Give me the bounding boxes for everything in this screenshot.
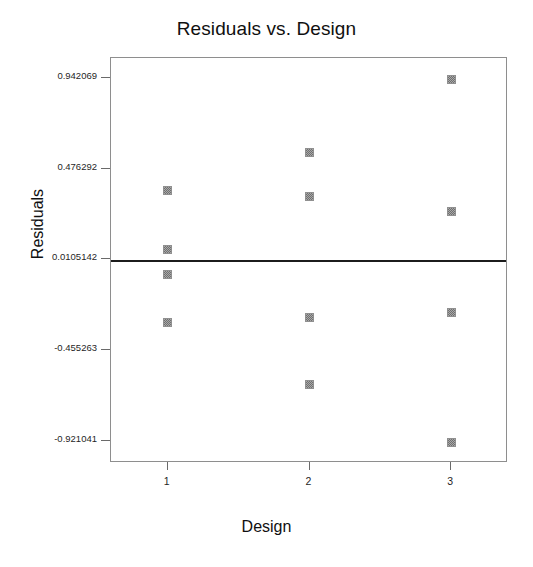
y-tick-mark: [101, 258, 110, 259]
y-tick-mark: [101, 440, 110, 441]
data-point: [447, 438, 456, 447]
data-point: [305, 148, 314, 157]
reference-line: [111, 260, 506, 262]
data-point: [447, 308, 456, 317]
data-point: [305, 192, 314, 201]
y-tick-mark: [101, 349, 110, 350]
y-axis-label: Residuals: [29, 164, 47, 284]
data-point: [305, 380, 314, 389]
y-tick-label: -0.455263: [54, 342, 97, 353]
y-tick-label: 0.0105142: [52, 251, 97, 262]
y-tick-label: 0.942069: [57, 70, 97, 81]
x-axis-label: Design: [0, 518, 533, 536]
y-tick-label: -0.921041: [54, 433, 97, 444]
residuals-vs-design-chart: Residuals vs. Design Residuals Design 0.…: [0, 0, 533, 567]
x-tick-label: 1: [153, 475, 181, 487]
plot-area: [110, 57, 507, 462]
y-tick-mark: [101, 168, 110, 169]
x-tick-mark: [450, 462, 451, 470]
data-point: [163, 270, 172, 279]
data-point: [163, 245, 172, 254]
x-tick-label: 3: [436, 475, 464, 487]
data-point: [447, 207, 456, 216]
data-point: [163, 318, 172, 327]
chart-title: Residuals vs. Design: [0, 18, 533, 40]
x-tick-mark: [167, 462, 168, 470]
x-tick-mark: [309, 462, 310, 470]
data-point: [447, 75, 456, 84]
y-tick-label: 0.476292: [57, 161, 97, 172]
y-tick-mark: [101, 77, 110, 78]
data-point: [163, 186, 172, 195]
x-tick-label: 2: [295, 475, 323, 487]
data-point: [305, 313, 314, 322]
